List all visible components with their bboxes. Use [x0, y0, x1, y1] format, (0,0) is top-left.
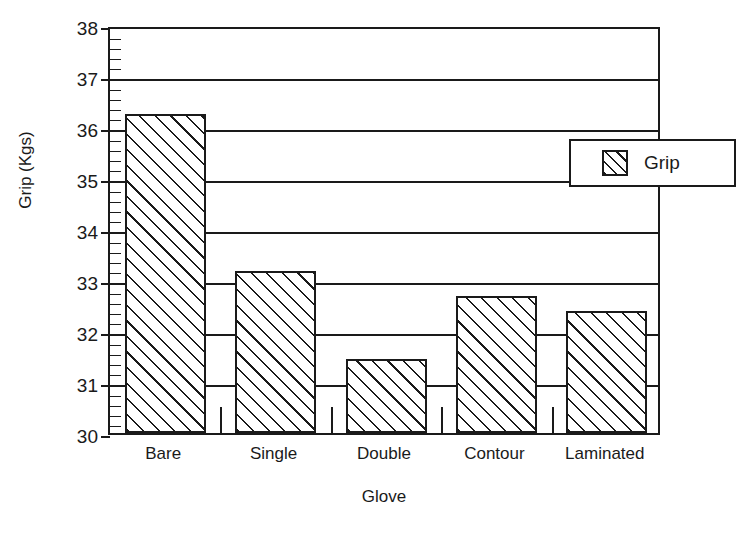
y-axis-minor-tick: [110, 69, 121, 70]
y-axis-tick-label: 30: [38, 426, 98, 448]
legend-swatch-grip-icon: [602, 150, 628, 176]
y-axis-tick-label: 34: [38, 222, 98, 244]
y-axis-minor-tick: [110, 406, 121, 407]
y-axis-major-tick: [101, 130, 110, 132]
y-axis-minor-tick: [110, 151, 121, 152]
y-axis-minor-tick: [110, 294, 121, 295]
y-axis-minor-tick: [110, 324, 121, 325]
y-axis-minor-tick: [110, 253, 121, 254]
y-axis-minor-tick: [110, 39, 121, 40]
y-axis-major-tick: [101, 232, 110, 234]
y-axis-minor-tick: [110, 100, 121, 101]
y-axis-minor-tick: [110, 396, 121, 397]
y-axis-minor-tick: [110, 90, 121, 91]
y-axis-major-tick: [101, 436, 110, 438]
y-axis-minor-tick: [110, 375, 121, 376]
y-axis-major-tick: [101, 334, 110, 336]
y-axis-tick-label: 35: [38, 171, 98, 193]
bar: [346, 359, 427, 433]
y-axis-minor-tick: [110, 202, 121, 203]
x-axis-category-tick: [441, 407, 443, 433]
y-axis-tick-label: 36: [38, 120, 98, 142]
chart-legend: Grip: [569, 139, 736, 187]
y-axis-minor-tick: [110, 212, 121, 213]
y-axis-major-tick: [101, 283, 110, 285]
y-axis-tick-label: 33: [38, 273, 98, 295]
y-axis-major-tick: [101, 79, 110, 81]
x-axis-title: Glove: [108, 487, 660, 507]
y-axis-minor-tick: [110, 314, 121, 315]
gridline: [110, 79, 658, 81]
y-axis-minor-tick: [110, 304, 121, 305]
x-axis-category-label: Bare: [145, 444, 181, 464]
x-axis-category-label: Laminated: [565, 444, 644, 464]
y-axis-minor-tick: [110, 263, 121, 264]
y-axis-minor-tick: [110, 192, 121, 193]
y-axis-minor-tick: [110, 110, 121, 111]
y-axis-minor-tick: [110, 243, 121, 244]
y-axis-tick-label: 31: [38, 375, 98, 397]
y-axis-major-tick: [101, 28, 110, 30]
y-axis-minor-tick: [110, 416, 121, 417]
y-axis-tick-label: 37: [38, 69, 98, 91]
bar: [125, 114, 206, 433]
y-axis-minor-tick: [110, 141, 121, 142]
y-axis-minor-tick: [110, 161, 121, 162]
x-axis-category-label: Double: [357, 444, 411, 464]
y-axis-minor-tick: [110, 120, 121, 121]
y-axis-minor-tick: [110, 49, 121, 50]
x-axis-category-label: Contour: [464, 444, 524, 464]
plot-inner: 303132333435363738: [110, 29, 658, 433]
y-axis-tick-label: 32: [38, 324, 98, 346]
y-axis-minor-tick: [110, 426, 121, 427]
legend-label-grip: Grip: [644, 152, 680, 174]
x-axis-category-tick: [331, 407, 333, 433]
x-axis-category-tick: [552, 407, 554, 433]
y-axis-minor-tick: [110, 345, 121, 346]
x-axis-category-tick: [220, 407, 222, 433]
y-axis-minor-tick: [110, 171, 121, 172]
plot-area: 303132333435363738 Grip: [108, 27, 660, 435]
y-axis-major-tick: [101, 385, 110, 387]
y-axis-tick-label: 38: [38, 18, 98, 40]
y-axis-minor-tick: [110, 365, 121, 366]
y-axis-minor-tick: [110, 355, 121, 356]
x-axis-category-label: Single: [250, 444, 297, 464]
bar: [456, 296, 537, 433]
y-axis-minor-tick: [110, 273, 121, 274]
y-axis-title: Grip (Kgs): [16, 100, 36, 240]
y-axis-major-tick: [101, 181, 110, 183]
y-axis-minor-tick: [110, 59, 121, 60]
bar: [235, 271, 316, 433]
y-axis-minor-tick: [110, 222, 121, 223]
bar: [566, 311, 647, 433]
